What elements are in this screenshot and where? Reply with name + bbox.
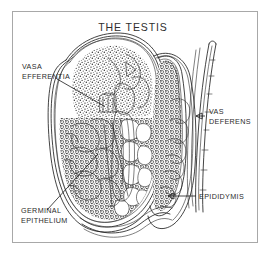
testis-interior (55, 40, 160, 224)
figure-page: THE TESTIS (0, 0, 271, 256)
label-epididymis-line1: EPIDIDYMIS (199, 192, 244, 201)
testis-diagram: THE TESTIS (0, 0, 271, 256)
label-vas-deferens: VAS DEFERENS (209, 107, 251, 126)
label-vas-deferens-line1: VAS (209, 107, 224, 116)
label-germinal-epithelium-line2: EPITHELIUM (21, 216, 68, 225)
vas-deferens-tube (187, 41, 216, 212)
label-vasa-efferentia-line1: VASA (22, 62, 42, 71)
label-epididymis: EPIDIDYMIS (199, 192, 244, 201)
label-germinal-epithelium: GERMINAL EPITHELIUM (21, 206, 68, 225)
label-germinal-epithelium-line1: GERMINAL (21, 206, 61, 215)
label-vasa-efferentia-line2: EFFERENTIA (22, 72, 70, 81)
label-vas-deferens-line2: DEFERENS (209, 117, 251, 126)
epididymis (148, 52, 196, 229)
figure-title: THE TESTIS (98, 21, 167, 33)
